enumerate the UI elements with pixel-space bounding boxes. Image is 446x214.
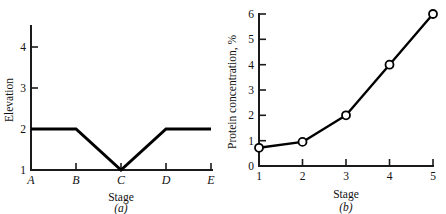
chart-b-svg: 0 1 2 3 4 5 6 1 2 3 4 5 (223, 0, 446, 214)
y-tick-label-b-1: 1 (248, 135, 254, 147)
y-tick-label-b-6: 6 (248, 8, 254, 20)
y-tick-label-a-2: 3 (20, 82, 26, 94)
figure-root: 1 2 3 4 A B C D E Elevation Stage (a) (0, 0, 446, 214)
y-axis-title-a: Elevation (3, 78, 15, 122)
x-tick-label-a-2: C (117, 173, 126, 187)
data-point-marker (299, 138, 307, 146)
data-point-marker (386, 61, 394, 69)
x-tick-label-a-4: E (206, 173, 215, 187)
x-tick-label-a-1: B (72, 173, 80, 187)
x-tick-label-b-4: 5 (430, 170, 436, 182)
y-tick-label-a-3: 4 (20, 41, 26, 53)
x-axis-title-b: Stage (333, 188, 359, 201)
panel-caption-a: (a) (114, 202, 128, 214)
x-tick-label-b-3: 4 (387, 170, 393, 182)
y-tick-label-b-0: 0 (248, 160, 254, 172)
panel-caption-b: (b) (339, 201, 353, 214)
x-tick-label-b-1: 2 (300, 170, 306, 182)
x-tick-label-b-2: 3 (343, 170, 349, 182)
y-tick-label-b-5: 5 (248, 33, 254, 45)
y-axis-title-b: Protein concentration, % (226, 35, 239, 149)
data-point-marker (255, 144, 263, 152)
x-tick-label-b-0: 1 (256, 170, 262, 182)
y-tick-label-b-4: 4 (248, 59, 254, 71)
chart-a-svg: 1 2 3 4 A B C D E Elevation Stage (a) (0, 0, 223, 214)
y-tick-label-a-1: 2 (20, 123, 26, 135)
data-series-protein (259, 14, 433, 148)
x-tick-label-a-0: A (26, 173, 35, 187)
chart-panel-a: 1 2 3 4 A B C D E Elevation Stage (a) (0, 0, 223, 214)
y-tick-label-b-3: 3 (248, 84, 254, 96)
y-tick-label-a-0: 1 (20, 164, 26, 176)
data-point-marker (342, 111, 350, 119)
y-tick-label-b-2: 2 (248, 109, 254, 121)
x-tick-label-a-3: D (161, 173, 171, 187)
chart-panel-b: 0 1 2 3 4 5 6 1 2 3 4 5 (223, 0, 446, 214)
data-point-marker (429, 10, 437, 18)
